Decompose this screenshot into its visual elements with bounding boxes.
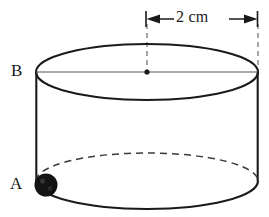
bead-at-a — [35, 174, 58, 197]
bottom-ellipse-back-arc — [36, 153, 258, 181]
cylinder-diagram-canvas — [0, 0, 269, 217]
bead-ball-icon — [35, 174, 58, 197]
dimension-extension-lines — [147, 24, 258, 74]
point-label-a: A — [10, 175, 22, 192]
cylinder-side-walls — [36, 72, 257, 181]
arrow-right-icon — [244, 15, 258, 24]
point-label-b: B — [11, 62, 22, 79]
bead-shade — [48, 186, 52, 190]
bead-highlight — [40, 178, 45, 183]
top-face-center-dot — [144, 69, 149, 74]
dimension-label: 2 cm — [176, 9, 208, 25]
cylinder-figure: B A 2 cm — [0, 0, 269, 217]
bottom-ellipse-front-arc — [36, 181, 258, 209]
arrow-left-icon — [147, 15, 161, 24]
